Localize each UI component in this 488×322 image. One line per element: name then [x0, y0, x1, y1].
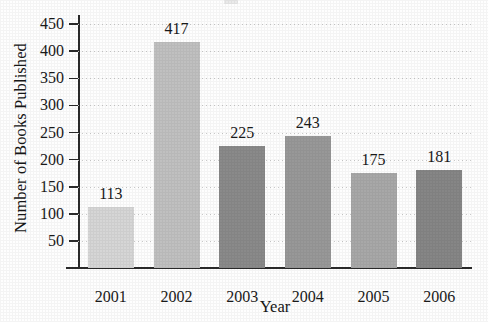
y-tick-mark-250: [69, 132, 78, 134]
y-tick-label-100: 100: [20, 206, 64, 222]
y-tick-mark-100: [69, 213, 78, 215]
bar-2006: [416, 170, 462, 268]
gridline-100: [78, 214, 472, 215]
y-tick-label-350: 350: [20, 70, 64, 86]
bar-value-label-2006: 181: [399, 149, 479, 165]
gridline-350: [78, 78, 472, 79]
bar-2002: [154, 42, 200, 268]
bar-2005: [351, 173, 397, 268]
bar-value-label-2001: 113: [71, 186, 151, 202]
bar-2003: [219, 146, 265, 268]
plot-area: 50100150200250300350400450 1134172252431…: [78, 16, 472, 268]
y-tick-mark-200: [69, 159, 78, 161]
y-tick-label-300: 300: [20, 97, 64, 113]
y-tick-mark-350: [69, 78, 78, 80]
y-tick-label-150: 150: [20, 179, 64, 195]
y-tick-label-450: 450: [20, 16, 64, 32]
y-tick-mark-50: [69, 240, 78, 242]
y-tick-label-200: 200: [20, 152, 64, 168]
y-tick-mark-400: [69, 50, 78, 52]
y-tick-label-400: 400: [20, 43, 64, 59]
bar-2004: [285, 136, 331, 268]
gridline-400: [78, 51, 472, 52]
y-tick-label-250: 250: [20, 125, 64, 141]
bar-2001: [88, 207, 134, 268]
x-axis-title: Year: [78, 297, 472, 317]
bar-value-label-2004: 243: [268, 115, 348, 131]
y-tick-mark-450: [69, 23, 78, 25]
bar-chart: Number of Books Published 50100150200250…: [0, 0, 488, 322]
clipped-title-remnant: [224, 0, 238, 4]
bar-value-label-2002: 417: [137, 21, 217, 37]
y-tick-label-50: 50: [20, 233, 64, 249]
y-tick-mark-300: [69, 105, 78, 107]
gridline-50: [78, 241, 472, 242]
gridline-300: [78, 105, 472, 106]
